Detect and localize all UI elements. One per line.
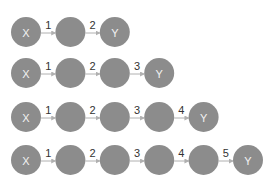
- node-label: Y: [111, 27, 119, 39]
- edge-label: 2: [90, 104, 96, 116]
- edge-label: 2: [90, 19, 96, 31]
- chain-row-2: 123XY: [11, 58, 174, 88]
- node-intermediate: [100, 145, 130, 175]
- chain-row-4: 12345XY: [11, 145, 263, 175]
- node-intermediate: [55, 58, 85, 88]
- edge-label: 1: [45, 104, 51, 116]
- chain-row-1: 12XY: [11, 17, 130, 47]
- node-intermediate: [55, 102, 85, 132]
- edge-label: 1: [45, 19, 51, 31]
- edge-label: 3: [134, 104, 140, 116]
- node-label: Y: [156, 68, 164, 80]
- edge-label: 4: [178, 104, 184, 116]
- node-intermediate: [55, 145, 85, 175]
- edge-label: 2: [90, 147, 96, 159]
- node-intermediate: [189, 145, 219, 175]
- edge-label: 3: [134, 147, 140, 159]
- node-intermediate: [100, 102, 130, 132]
- edge-label: 2: [90, 60, 96, 72]
- edge-label: 3: [134, 60, 140, 72]
- node-intermediate: [55, 17, 85, 47]
- node-label: X: [22, 68, 30, 80]
- edge-label: 4: [178, 147, 184, 159]
- node-intermediate: [144, 145, 174, 175]
- edge-label: 1: [45, 60, 51, 72]
- node-label: X: [22, 155, 30, 167]
- node-intermediate: [100, 58, 130, 88]
- node-label: X: [22, 112, 30, 124]
- edge-label: 1: [45, 147, 51, 159]
- node-label: Y: [200, 112, 208, 124]
- node-label: X: [22, 27, 30, 39]
- chain-diagram: 12XY123XY1234XY12345XY: [0, 0, 268, 187]
- node-intermediate: [144, 102, 174, 132]
- chain-row-3: 1234XY: [11, 102, 219, 132]
- edge-label: 5: [223, 147, 229, 159]
- node-label: Y: [244, 155, 252, 167]
